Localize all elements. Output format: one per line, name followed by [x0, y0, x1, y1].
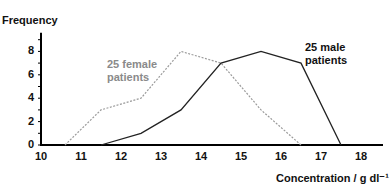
- y-tick-label: 6: [20, 68, 34, 80]
- x-tick-label: 10: [35, 150, 47, 162]
- male-annotation-line2: patients: [305, 54, 347, 67]
- male-annotation-line1: 25 male: [305, 41, 347, 54]
- x-tick-label: 16: [275, 150, 287, 162]
- female-series-line: [65, 51, 301, 145]
- y-tick-label: 4: [20, 91, 34, 103]
- female-annotation: 25 female patients: [107, 58, 157, 84]
- y-axis-label: Frequency: [2, 14, 58, 26]
- x-tick-label: 14: [195, 150, 207, 162]
- x-tick-label: 17: [315, 150, 327, 162]
- x-axis-label: Concentration / g dl⁻¹: [276, 172, 389, 185]
- y-tick-label: 8: [20, 44, 34, 56]
- x-tick-label: 18: [355, 150, 367, 162]
- female-annotation-line2: patients: [107, 71, 157, 84]
- y-tick-label: 2: [20, 115, 34, 127]
- female-annotation-line1: 25 female: [107, 58, 157, 71]
- x-tick-label: 13: [155, 150, 167, 162]
- x-tick-label: 11: [75, 150, 87, 162]
- x-tick-label: 15: [235, 150, 247, 162]
- male-annotation: 25 male patients: [305, 41, 347, 67]
- x-tick-label: 12: [115, 150, 127, 162]
- frequency-chart: [0, 0, 392, 193]
- y-tick-label: 0: [20, 138, 34, 150]
